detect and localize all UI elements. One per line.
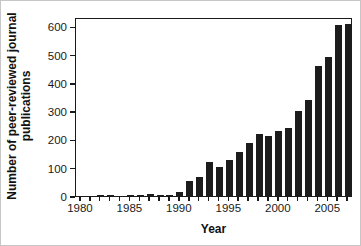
y-tick-500 [70, 55, 75, 57]
x-tick-2001 [287, 197, 289, 201]
bar-1987 [147, 194, 154, 196]
y-tick-300 [70, 111, 75, 113]
bar-1999 [265, 136, 272, 197]
bar-2002 [295, 111, 302, 196]
x-tick-2005 [327, 197, 329, 201]
y-axis-title: Number of peer-reviewed journal publicat… [3, 1, 35, 211]
x-tick-1989 [168, 197, 170, 201]
bar-1988 [157, 195, 164, 196]
bar-2004 [315, 66, 322, 196]
bar-1982 [97, 195, 104, 196]
y-tick-400 [70, 83, 75, 85]
x-tick-1992 [198, 197, 200, 201]
bar-2007 [345, 24, 352, 196]
x-tick-1987 [148, 197, 150, 201]
bar-1996 [236, 152, 243, 196]
y-tick-0 [70, 196, 75, 198]
bar-1994 [216, 167, 223, 196]
x-tick-1999 [267, 197, 269, 201]
y-axis-title-line2: publications [19, 1, 33, 211]
x-tick-1997 [247, 197, 249, 201]
x-tick-label-1990: 1990 [159, 202, 199, 214]
bar-1997 [246, 143, 253, 196]
y-tick-100 [70, 168, 75, 170]
bar-1990 [176, 192, 183, 196]
x-tick-1982 [99, 197, 101, 201]
x-tick-1981 [89, 197, 91, 201]
x-tick-label-2005: 2005 [307, 202, 347, 214]
x-tick-1993 [208, 197, 210, 201]
x-tick-2002 [297, 197, 299, 201]
x-tick-1994 [218, 197, 220, 201]
bar-2003 [305, 100, 312, 196]
x-tick-1980 [79, 197, 81, 201]
bar-1985 [127, 195, 134, 196]
x-tick-label-1980: 1980 [60, 202, 100, 214]
x-tick-1986 [139, 197, 141, 201]
bar-1983 [107, 195, 114, 196]
x-tick-2004 [317, 197, 319, 201]
x-tick-1991 [188, 197, 190, 201]
x-tick-1990 [178, 197, 180, 201]
bar-1986 [137, 195, 144, 196]
bar-1993 [206, 162, 213, 196]
x-tick-1996 [237, 197, 239, 201]
x-tick-label-1985: 1985 [109, 202, 149, 214]
x-tick-label-2000: 2000 [258, 202, 298, 214]
x-tick-1984 [119, 197, 121, 201]
x-tick-1995 [228, 197, 230, 201]
x-tick-2007 [346, 197, 348, 201]
bar-1998 [256, 134, 263, 196]
x-tick-1983 [109, 197, 111, 201]
bar-1991 [186, 181, 193, 196]
x-axis-title: Year [75, 222, 352, 236]
bar-1995 [226, 160, 233, 196]
y-axis-title-line1: Number of peer-reviewed journal [5, 1, 19, 211]
plot-area [75, 18, 352, 197]
x-tick-2006 [336, 197, 338, 201]
publication-bar-chart-figure: 0100200300400500600 19801985199019952000… [0, 0, 361, 246]
bar-2005 [325, 57, 332, 196]
x-tick-label-1995: 1995 [208, 202, 248, 214]
bar-2001 [285, 128, 292, 196]
bar-2000 [275, 131, 282, 196]
y-tick-600 [70, 27, 75, 29]
y-tick-200 [70, 140, 75, 142]
bar-1989 [166, 195, 173, 196]
bar-2006 [335, 25, 342, 196]
x-tick-2000 [277, 197, 279, 201]
bar-1992 [196, 177, 203, 196]
x-tick-1985 [129, 197, 131, 201]
x-tick-1988 [158, 197, 160, 201]
x-tick-1998 [257, 197, 259, 201]
x-tick-2003 [307, 197, 309, 201]
